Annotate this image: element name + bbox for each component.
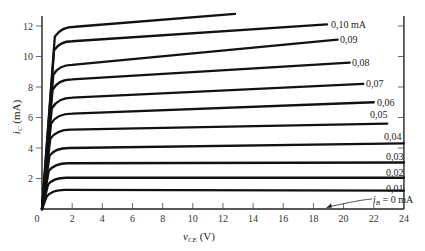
arrowhead-icon (326, 204, 332, 209)
ib-zero-annotation: iB = 0 mA (326, 194, 414, 208)
curve-label-ib-0.08: 0,08 (352, 57, 370, 68)
ic-curve-ib-0.05 (42, 124, 387, 209)
base-current-labels: 0,010,020,030,040,050,060,070,080,090,10… (331, 19, 404, 194)
x-tick-label: 8 (160, 213, 165, 224)
x-tick-label: 12 (218, 213, 228, 224)
curve-label-ib-0.09: 0,09 (340, 34, 358, 45)
x-tick-label: 18 (308, 213, 318, 224)
x-tick-label: 6 (130, 213, 135, 224)
annotation-arrow-line (328, 199, 372, 207)
curve-label-ib-0.05: 0,05 (370, 109, 388, 120)
axes: 02468101214161820222424681012 (23, 16, 409, 224)
transistor-output-characteristics-chart: 02468101214161820222424681012 0,010,020,… (0, 0, 425, 251)
curve-label-ib-0.01: 0,01 (386, 183, 404, 194)
ib-zero-label: iB = 0 mA (373, 194, 414, 207)
curve-label-ib-0.06: 0,06 (377, 97, 395, 108)
curve-label-ib-0.10: 0,10 mA (331, 19, 367, 30)
ic-curve-ib-0.06 (42, 102, 374, 209)
curve-label-ib-0.04: 0,04 (384, 131, 402, 142)
y-tick-label: 4 (28, 143, 33, 154)
ic-curve-ib-0.03 (42, 162, 404, 209)
x-tick-label: 10 (188, 213, 198, 224)
x-tick-label: 16 (278, 213, 288, 224)
ic-curve-ib-0.04 (42, 143, 404, 209)
x-axis-title: vCE (V) (183, 230, 215, 244)
ic-curve-ib-0.08 (42, 63, 350, 209)
x-tick-label: 0 (35, 213, 40, 224)
curve-label-ib-0.02: 0,02 (386, 167, 404, 178)
y-tick-label: 10 (23, 51, 33, 62)
curve-label-ib-0.07: 0,07 (366, 78, 384, 89)
x-tick-label: 2 (70, 213, 75, 224)
y-tick-label: 12 (23, 21, 33, 32)
y-axis-title: iC (mA) (10, 100, 24, 135)
curve-label-ib-0.03: 0,03 (386, 151, 404, 162)
x-tick-label: 4 (100, 213, 105, 224)
ic-curve-ib-0.10 (42, 24, 327, 209)
y-tick-label: 8 (28, 82, 33, 93)
x-tick-label: 24 (399, 213, 409, 224)
y-tick-label: 6 (28, 112, 33, 123)
x-tick-label: 14 (248, 213, 258, 224)
y-tick-label: 2 (28, 173, 33, 184)
x-tick-label: 22 (369, 213, 379, 224)
x-tick-label: 20 (339, 213, 349, 224)
